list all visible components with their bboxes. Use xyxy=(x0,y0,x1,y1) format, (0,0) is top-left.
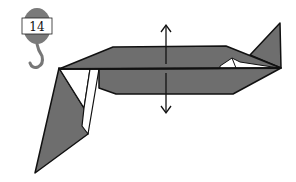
center-edge xyxy=(59,68,281,69)
step-badge: 14 xyxy=(22,8,52,68)
step-number: 14 xyxy=(29,20,45,34)
lower-body-layer xyxy=(99,68,281,94)
origami-diagram: 14 xyxy=(0,0,296,182)
hanger-hook-icon xyxy=(30,44,43,68)
